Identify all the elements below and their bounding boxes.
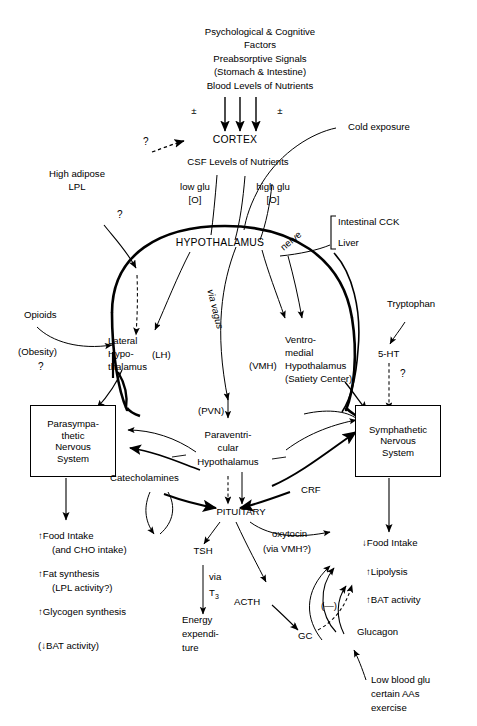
node-lateral-hypothalamus-l3: thalamus xyxy=(108,361,147,372)
node-high-glu-o2: [O] xyxy=(244,194,302,205)
node-tryptophan: Tryptophan xyxy=(387,298,435,309)
output-energy-l3: ture xyxy=(182,642,199,653)
input-certain-aas: certain AAs xyxy=(371,688,420,699)
node-obesity: (Obesity) xyxy=(18,346,57,357)
question-mark-cortex: ? xyxy=(143,136,149,148)
node-crf: CRF xyxy=(301,484,321,495)
node-glucagon: Glucagon xyxy=(357,626,398,637)
node-low-glu: low glu xyxy=(166,181,224,192)
input-low-blood-glu: Low blood glu xyxy=(371,674,430,685)
node-csf-levels: CSF Levels of Nutrients xyxy=(168,156,308,167)
question-mark-obesity: ? xyxy=(38,361,44,373)
node-ventromedial-l1: Ventro- xyxy=(285,334,316,345)
node-high-adipose: High adipose xyxy=(32,168,122,179)
label-vmh-tag: (VMH) xyxy=(249,360,277,371)
node-ventromedial-l3: Hypothalamus xyxy=(285,360,346,371)
box-symp-l2: Nervous xyxy=(369,435,427,447)
question-mark-lpl: ? xyxy=(117,209,123,221)
output-food-intake-up: ↑Food Intake xyxy=(38,530,93,541)
node-lpl: LPL xyxy=(32,181,122,192)
label-oxytocin: oxytocin xyxy=(272,528,307,539)
node-catecholamines: Catecholamines xyxy=(110,472,179,483)
output-food-intake-down: ↓Food Intake xyxy=(362,537,417,548)
input-stomach-intestine: (Stomach & Intestine) xyxy=(160,66,360,77)
label-minus-sign: (—) xyxy=(321,600,337,611)
diagram-canvas: Psychological & Cognitive Factors Preabs… xyxy=(0,0,477,726)
output-fat-synthesis: ↑Fat synthesis xyxy=(38,568,99,579)
output-bat-activity-up: ↑BAT activity xyxy=(366,594,421,605)
input-psychological-cognitive: Psychological & Cognitive xyxy=(160,26,360,37)
output-energy-l2: expendi- xyxy=(182,628,219,639)
label-lh-tag: (LH) xyxy=(152,349,171,360)
input-preabsorptive-signals: Preabsorptive Signals xyxy=(160,53,360,64)
box-parasympathetic-nervous-system[interactable]: Parasympa- thetic Nervous System xyxy=(30,405,116,477)
output-lpl-activity: (LPL activity?) xyxy=(52,582,112,593)
box-symp-l1: Symphathetic xyxy=(369,424,427,436)
node-paraventricular-l1: Paraventri- xyxy=(178,429,278,440)
node-low-glu-o2: [O] xyxy=(166,194,224,205)
sign-plus-minus-left: ± xyxy=(186,105,202,116)
node-ventromedial-l2: medial xyxy=(285,347,313,358)
node-cortex: CORTEX xyxy=(190,134,280,146)
node-tsh: TSH xyxy=(178,545,228,556)
output-energy-l1: Energy xyxy=(182,614,212,625)
output-cho-intake: (and CHO intake) xyxy=(52,544,127,555)
box-para-l4: System xyxy=(47,453,99,465)
label-via: via xyxy=(209,571,221,582)
question-mark-5ht: ? xyxy=(400,368,406,380)
node-cold-exposure: Cold exposure xyxy=(348,121,410,132)
node-liver: Liver xyxy=(338,237,359,248)
output-glycogen-synthesis: ↑Glycogen synthesis xyxy=(38,606,126,617)
label-oxytocin-via-vmh: (via VMH?) xyxy=(263,543,311,554)
node-5ht: 5-HT xyxy=(378,348,399,359)
node-gc: GC xyxy=(298,630,312,641)
node-pituitary: PITUITARY xyxy=(196,506,286,517)
input-blood-levels-nutrients: Blood Levels of Nutrients xyxy=(160,80,360,91)
box-para-l3: Nervous xyxy=(47,441,99,453)
label-t3: T3 xyxy=(209,587,219,601)
sign-plus-minus-right: ± xyxy=(272,105,288,116)
output-lipolysis: ↑Lipolysis xyxy=(366,566,408,577)
box-sympathetic-nervous-system[interactable]: Symphathetic Nervous System xyxy=(355,405,441,477)
input-factors: Factors xyxy=(160,39,360,50)
node-paraventricular-l2: cular xyxy=(178,442,278,453)
label-pvn-tag: (PVN) xyxy=(198,405,224,416)
box-para-l1: Parasympa- xyxy=(47,418,99,430)
box-symp-l3: System xyxy=(369,447,427,459)
node-lateral-hypothalamus-l2: Hypo- xyxy=(108,348,134,359)
node-opioids: Opioids xyxy=(24,309,57,320)
node-intestinal-cck: Intestinal CCK xyxy=(338,216,399,227)
output-bat-activity-down: (↓BAT activity) xyxy=(38,640,99,651)
input-exercise: exercise xyxy=(371,702,407,713)
node-lateral-hypothalamus-l1: Lateral xyxy=(108,335,137,346)
node-hypothalamus: HYPOTHALAMUS xyxy=(155,237,285,249)
node-high-glu: high glu xyxy=(244,181,302,192)
node-paraventricular-l3: Hypothalamus xyxy=(178,456,278,467)
node-satiety-center: (Satiety Center) xyxy=(285,373,352,384)
node-acth: ACTH xyxy=(234,596,260,607)
box-para-l2: thetic xyxy=(47,430,99,442)
